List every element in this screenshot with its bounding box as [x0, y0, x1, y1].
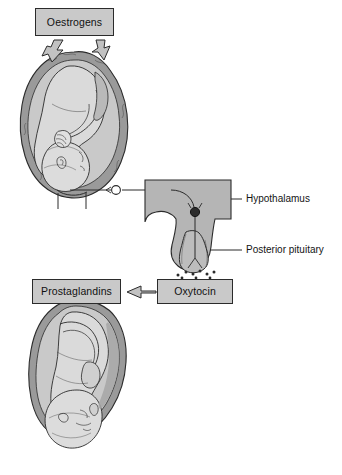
hypothalamus-label: Hypothalamus [246, 194, 310, 204]
block-arrow-left-icon [127, 286, 156, 298]
label-box-prostaglandins[interactable]: Prostaglandins [32, 279, 121, 304]
diagram-canvas: Oestrogens Oxytocin Prostaglandins Hypot… [0, 0, 342, 475]
afferent-neuron-cell-body-1 [112, 186, 121, 195]
prostaglandins-label: Prostaglandins [41, 286, 112, 297]
label-box-oxytocin[interactable]: Oxytocin [157, 279, 233, 304]
upper-uterus-illustration [20, 52, 127, 209]
label-box-oestrogens[interactable]: Oestrogens [35, 8, 114, 36]
oxytocin-to-prostaglandins-arrow [127, 286, 156, 298]
diagram-artwork [0, 0, 342, 475]
posterior-pituitary-label: Posterior pituitary [246, 245, 324, 255]
oestrogens-label: Oestrogens [47, 17, 102, 28]
brain-illustration [145, 180, 242, 279]
fetal-head-lower [45, 390, 102, 448]
neurosecretory-cell-body [190, 207, 199, 216]
lower-uterus-illustration [29, 300, 126, 448]
oxytocin-label: Oxytocin [174, 286, 216, 297]
fetal-leg-lower [81, 362, 100, 388]
